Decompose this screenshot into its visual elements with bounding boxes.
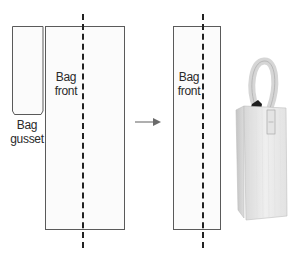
front-label-right: Bag front [175, 70, 203, 98]
front-label-right-line1: Bag [175, 70, 203, 84]
gusset-label-line1: Bag [6, 118, 48, 132]
fold-line-left [82, 14, 84, 248]
front-label-right-line2: front [175, 84, 203, 98]
fold-line-right [202, 14, 204, 248]
front-label-left: Bag front [52, 70, 80, 98]
front-label-left-line2: front [52, 84, 80, 98]
bag-front-piece-right [173, 26, 221, 230]
bag-front-piece-left [45, 26, 125, 230]
finished-bag-image [234, 58, 289, 226]
front-label-left-line1: Bag [52, 70, 80, 84]
gusset-label-line2: gusset [6, 132, 48, 146]
bag-gusset-piece [12, 26, 44, 116]
gusset-label: Bag gusset [6, 118, 48, 146]
arrow-right-icon [135, 116, 163, 128]
